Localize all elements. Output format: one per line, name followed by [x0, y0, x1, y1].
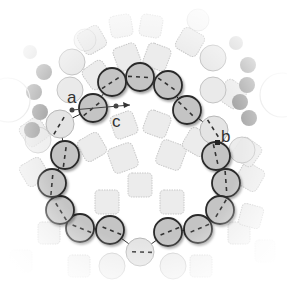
- bead-dark: [98, 68, 126, 96]
- bead-dark: [212, 169, 240, 197]
- label-a: a: [67, 88, 77, 107]
- bead-light: [126, 238, 154, 266]
- bead-dark: [184, 215, 212, 243]
- bead-dark: [206, 196, 234, 224]
- bead-dark: [96, 216, 124, 244]
- bead-dark: [126, 63, 154, 91]
- point-a-icon: [70, 108, 75, 113]
- bead-dark: [202, 142, 230, 170]
- bead-ring-diagram: a c b: [0, 0, 287, 299]
- bead-dark: [173, 96, 201, 124]
- point-b-icon: [215, 140, 220, 145]
- label-b: b: [221, 127, 230, 146]
- arrow-c-icon: [123, 102, 130, 108]
- bead-dark: [38, 169, 66, 197]
- bead-light: [46, 110, 74, 138]
- bead-dark: [51, 141, 79, 169]
- label-c: c: [112, 112, 121, 131]
- bead-dark: [154, 218, 182, 246]
- point-c-icon: [114, 104, 119, 109]
- bead-dark: [154, 71, 182, 99]
- bead-dark: [46, 196, 74, 224]
